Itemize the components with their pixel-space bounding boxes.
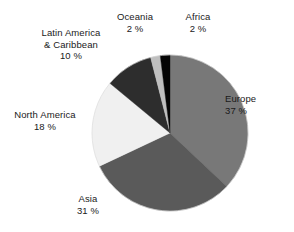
slice-label-asia-name: Asia (64, 193, 112, 205)
slice-label-asia: Asia 31 % (64, 193, 112, 216)
slice-label-latin-america-line2: & Caribbean (18, 39, 124, 51)
clipped-title-remnant (150, 0, 294, 4)
slice-label-europe: Europe 37 % (225, 93, 281, 116)
slice-label-latin-america-line1: Latin America (18, 27, 124, 39)
slice-label-africa-name: Africa (176, 11, 220, 23)
slice-label-latin-america-value: 10 % (18, 50, 124, 62)
slice-label-africa: Africa 2 % (176, 11, 220, 34)
slice-label-asia-value: 31 % (64, 205, 112, 217)
pie-slice-group (92, 55, 248, 211)
slice-label-north-america-name: North America (3, 109, 87, 121)
slice-label-africa-value: 2 % (176, 23, 220, 35)
slice-label-europe-name: Europe (225, 93, 281, 105)
slice-label-north-america: North America 18 % (3, 109, 87, 132)
slice-label-oceania-name: Oceania (111, 11, 159, 23)
slice-label-north-america-value: 18 % (3, 121, 87, 133)
pie-chart: Oceania 2 % Africa 2 % Latin America & C… (0, 0, 294, 232)
slice-label-latin-america-caribbean: Latin America & Caribbean 10 % (18, 27, 124, 62)
slice-label-europe-value: 37 % (225, 105, 281, 117)
